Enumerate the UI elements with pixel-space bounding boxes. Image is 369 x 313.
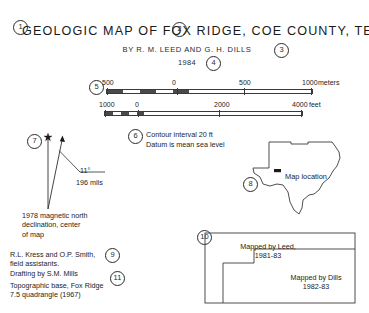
scale-label: 500 [102,79,114,86]
map-location-marker-icon [274,169,281,172]
scale-bar-feet-body [104,111,303,116]
callout-2: 2 [172,22,187,37]
declination-angle-label: 11° [80,166,90,175]
scale-unit-meters: meters [318,79,339,86]
authors-line: BY R. M. LEED AND G. H. DILLS [22,45,352,54]
scale-segment [121,112,129,115]
scale-segment [107,90,123,93]
declination-note-line-1: 1978 magnetic north [22,211,88,220]
datum-line: Datum is mean sea level [146,140,225,150]
base-line-1: Topographic base, Fox Ridge [10,281,104,290]
magnetic-north-line [48,138,63,209]
scale-segment [173,90,189,93]
scale-unit-feet: feet [309,101,321,108]
callout-4: 4 [206,56,221,71]
map-marginalia-sheet: 1 GEOLOGIC MAP OF FOX RIDGE, COE COUNTY,… [0,0,369,313]
scale-segment [140,90,156,93]
credits-assistants: R.L. Kress and O.P. Smith, field assista… [10,250,95,278]
scale-tick [105,110,106,117]
contour-note: Contour interval 20 ft Datum is mean sea… [146,130,225,149]
contour-interval-line: Contour interval 20 ft [146,130,225,140]
scale-label: 0 [172,79,176,86]
credits-line-1: R.L. Kress and O.P. Smith, [10,250,95,259]
scale-tick [107,88,108,95]
declination-note-line-3: of map [22,230,88,239]
declination-note: 1978 magnetic north declination, center … [22,211,88,239]
callout-9: 9 [105,248,120,263]
scale-tick [244,88,245,95]
index-area-leed: Mapped by Leed, 1981-83 [220,242,316,260]
page-title: GEOLOGIC MAP OF FOX RIDGE, COE COUNTY, T… [22,24,352,38]
declination-leader-line [59,151,80,173]
scale-bar-feet: 1000 0 2000 4000 feet [104,101,303,116]
credits-line-3: Drafting by S.M. Mills [10,269,95,278]
index-dills-line-2: 1982-83 [268,282,364,291]
scale-label: 0 [135,101,139,108]
declination-mils-label: 196 mils [76,178,103,187]
scale-label: 4000 [292,101,308,108]
index-leed-line-1: Mapped by Leed, [220,242,316,251]
scale-segment [105,112,113,115]
index-dills-line-1: Mapped by Dills [268,273,364,282]
scale-label: 2000 [214,101,230,108]
map-location-label: Map location [285,172,327,181]
index-area-dills: Mapped by Dills 1982-83 [268,273,364,291]
credits-line-2: field assistants. [10,259,95,268]
scale-label: 1000 [99,101,115,108]
declination-note-line-2: declination, center [22,220,88,229]
scale-bar-feet-labels: 1000 0 2000 4000 [104,101,303,111]
callout-6: 6 [128,129,143,144]
scale-tick [138,110,139,117]
scale-tick [177,88,178,95]
scale-tick [219,110,220,117]
scale-bar-meters-body [106,89,313,94]
index-leed-line-2: 1981-83 [220,251,316,260]
callout-3: 3 [274,43,289,58]
scale-label: 500 [239,79,251,86]
publication-year: 1984 [22,58,352,67]
scale-bar-meters-labels: 500 0 500 1000 [106,79,313,89]
scale-tick [301,110,302,117]
scale-label: 1000 [302,79,318,86]
magnetic-north-arrowhead-icon [60,136,65,143]
magnetic-declination-diagram [36,131,106,213]
base-line-2: 7.5 quadrangle (1967) [10,290,104,299]
scale-tick [311,88,312,95]
credits-topographic-base: Topographic base, Fox Ridge 7.5 quadrang… [10,281,104,300]
scale-bar-meters: 500 0 500 1000 meters [106,79,313,94]
callout-11: 11 [110,271,125,286]
